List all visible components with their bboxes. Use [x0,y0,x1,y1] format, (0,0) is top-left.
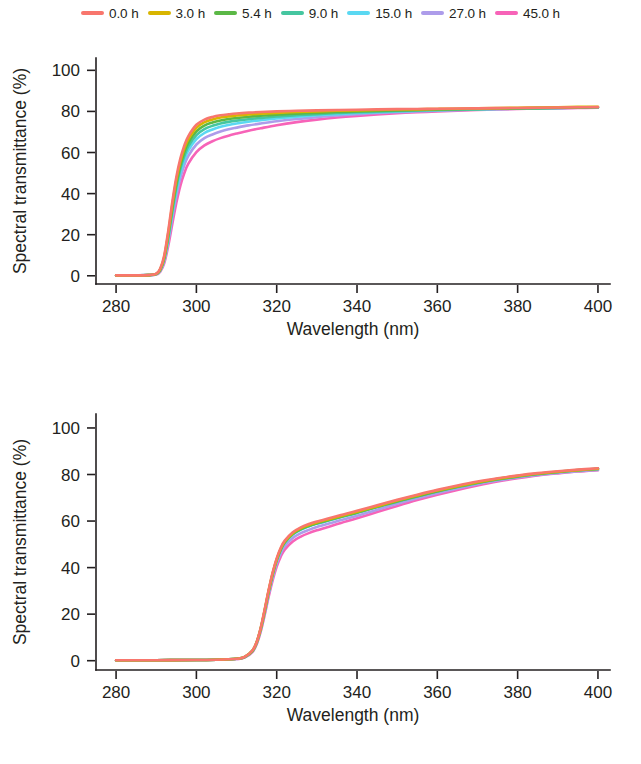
legend-entry[interactable]: 15.0 h [347,6,412,21]
x-tick-label: 280 [102,683,130,702]
legend-line-swatch [148,11,171,15]
y-tick-label: 100 [52,419,80,438]
y-tick-label: 40 [61,185,80,204]
legend-label: 45.0 h [523,6,560,21]
y-tick-label: 80 [61,102,80,121]
chart-svg: 020406080100280300320340360380400Wavelen… [0,382,641,764]
y-tick-label: 0 [71,267,80,286]
series-line [116,107,598,275]
series-line [116,469,598,661]
series-line [116,468,598,660]
x-tick-label: 340 [343,683,371,702]
series-line [116,108,598,276]
x-tick-label: 400 [584,683,612,702]
legend-label: 27.0 h [449,6,486,21]
y-tick-label: 20 [61,226,80,245]
legend-label: 5.4 h [242,6,272,21]
y-tick-label: 60 [61,144,80,163]
legend-line-swatch [347,11,370,15]
series-line [116,469,598,661]
series-line [116,107,598,275]
legend: 0.0 h3.0 h5.4 h9.0 h15.0 h27.0 h45.0 h [0,0,641,26]
legend-entry[interactable]: 5.4 h [214,6,272,21]
legend-line-swatch [421,11,444,15]
x-tick-label: 340 [343,297,371,316]
y-tick-label: 0 [71,652,80,671]
y-tick-label: 40 [61,559,80,578]
series-line [116,107,598,276]
legend-line-swatch [281,11,304,15]
y-tick-label: 80 [61,466,80,485]
y-tick-label: 60 [61,512,80,531]
x-tick-label: 400 [584,297,612,316]
legend-entry[interactable]: 9.0 h [281,6,339,21]
series-line [116,108,598,276]
legend-label: 0.0 h [109,6,139,21]
legend-entry[interactable]: 45.0 h [495,6,560,21]
x-tick-label: 380 [503,683,531,702]
x-axis-title: Wavelength (nm) [287,705,420,725]
legend-entry[interactable]: 0.0 h [81,6,139,21]
x-tick-label: 320 [263,297,291,316]
series-line [116,469,598,660]
legend-line-swatch [214,11,237,15]
series-line [116,470,598,660]
series-line [116,107,598,275]
legend-label: 9.0 h [309,6,339,21]
y-axis-title: Spectral transmittance (%) [10,439,30,645]
x-axis-title: Wavelength (nm) [287,319,420,339]
legend-line-swatch [81,11,104,15]
x-tick-label: 360 [423,683,451,702]
x-tick-label: 360 [423,297,451,316]
chart-svg: 020406080100280300320340360380400Wavelen… [0,26,641,382]
y-tick-label: 20 [61,605,80,624]
chart-panel-bottom: 020406080100280300320340360380400Wavelen… [0,382,641,764]
y-axis-title: Spectral transmittance (%) [10,68,30,274]
x-tick-label: 300 [182,683,210,702]
legend-label: 3.0 h [176,6,206,21]
legend-line-swatch [495,11,518,15]
y-tick-label: 100 [52,61,80,80]
legend-entry[interactable]: 3.0 h [148,6,206,21]
figure-root: 0.0 h3.0 h5.4 h9.0 h15.0 h27.0 h45.0 h 0… [0,0,641,764]
chart-panel-top: 020406080100280300320340360380400Wavelen… [0,26,641,382]
legend-entry[interactable]: 27.0 h [421,6,486,21]
x-tick-label: 300 [182,297,210,316]
series-line [116,470,598,660]
series-line [116,107,598,275]
x-tick-label: 320 [263,683,291,702]
x-tick-label: 280 [102,297,130,316]
series-line [116,469,598,660]
legend-label: 15.0 h [375,6,412,21]
x-tick-label: 380 [503,297,531,316]
